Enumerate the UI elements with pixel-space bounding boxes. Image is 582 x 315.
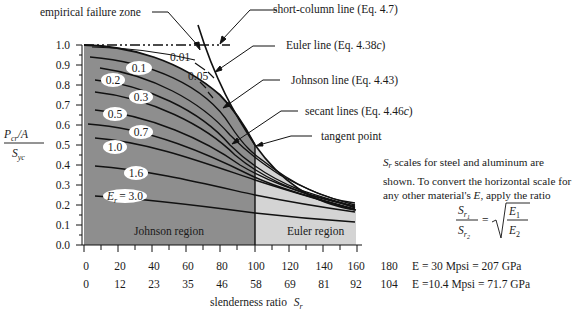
svg-text:0.1: 0.1 (56, 219, 71, 231)
svg-text:Sr2: Sr2 (458, 224, 470, 240)
svg-text:23: 23 (148, 278, 160, 290)
empirical-failure-zone-label: empirical failure zone (40, 6, 141, 19)
svg-text:12: 12 (114, 278, 126, 290)
svg-text:1.0: 1.0 (108, 141, 123, 153)
y-tick-labels: 1.0 0.9 0.8 0.7 0.6 0.5 0.4 0.3 0.2 0.1 … (56, 39, 71, 251)
ratio-formula: Sr1 Sr2 = E1 E2 (456, 203, 530, 240)
svg-text:1.6: 1.6 (129, 167, 144, 179)
svg-text:0.5: 0.5 (108, 108, 123, 120)
svg-text:120: 120 (281, 260, 299, 272)
steel-scale-label: E = 30 Mpsi = 207 GPa (412, 260, 521, 273)
svg-text:0.6: 0.6 (56, 119, 71, 131)
euler-region-label: Euler region (287, 225, 344, 238)
svg-text:0.7: 0.7 (56, 99, 71, 111)
svg-text:0: 0 (83, 260, 89, 272)
svg-text:Syc: Syc (12, 147, 25, 162)
x-tick-labels-steel: 0 20 40 60 80 100 120 140 160 180 (83, 260, 398, 272)
tangent-point-label: tangent point (321, 130, 382, 143)
svg-text:69: 69 (284, 278, 296, 290)
svg-text:92: 92 (350, 278, 362, 290)
svg-text:40: 40 (148, 260, 160, 272)
svg-text:35: 35 (182, 278, 194, 290)
aluminum-scale-label: E =10.4 Mpsi = 71.7 GPa (412, 278, 530, 291)
y-ticks (76, 45, 82, 235)
svg-text:46: 46 (216, 278, 228, 290)
svg-text:0.2: 0.2 (106, 74, 121, 86)
euler-line-label: Euler line (Eq. 4.38c) (286, 39, 386, 52)
svg-text:0.5: 0.5 (56, 139, 71, 151)
svg-text:Pcr/A: Pcr/A (3, 128, 29, 143)
johnson-line-label: Johnson line (Eq. 4.43) (291, 74, 398, 87)
svg-text:0.2: 0.2 (56, 199, 71, 211)
short-column-label: short-column line (Eq. 4.7) (273, 3, 398, 16)
svg-text:E1: E1 (508, 205, 520, 220)
svg-text:60: 60 (182, 260, 194, 272)
svg-text:180: 180 (380, 260, 398, 272)
svg-text:20: 20 (114, 260, 126, 272)
svg-text:0.4: 0.4 (56, 159, 71, 171)
svg-text:0.01: 0.01 (170, 51, 190, 63)
svg-text:E2: E2 (508, 224, 520, 239)
svg-text:0.3: 0.3 (134, 91, 149, 103)
scale-conversion-note: Sr scales for steel and aluminum are sho… (383, 155, 582, 203)
svg-text:104: 104 (380, 278, 398, 290)
svg-text:=: = (482, 214, 489, 226)
svg-text:140: 140 (315, 260, 333, 272)
svg-text:1.0: 1.0 (56, 39, 71, 51)
svg-text:0.7: 0.7 (134, 126, 149, 138)
svg-text:0.1: 0.1 (132, 62, 147, 74)
y-axis-label: Pcr/A Syc (3, 128, 44, 162)
x-tick-labels-aluminum: 0 12 23 35 46 58 69 81 92 104 (83, 278, 398, 290)
svg-text:80: 80 (216, 260, 228, 272)
x-ticks (84, 245, 357, 252)
svg-text:100: 100 (247, 260, 265, 272)
johnson-region-label: Johnson region (134, 225, 204, 238)
svg-text:0.3: 0.3 (56, 179, 71, 191)
svg-text:160: 160 (347, 260, 365, 272)
svg-text:58: 58 (250, 278, 262, 290)
svg-text:0.8: 0.8 (56, 79, 71, 91)
svg-text:81: 81 (318, 278, 330, 290)
svg-text:Sr1: Sr1 (458, 204, 470, 220)
secant-lines-label: secant lines (Eq. 4.46c) (305, 105, 413, 118)
x-axis-label: slenderness ratio Sr (210, 296, 304, 311)
svg-text:0.05: 0.05 (188, 70, 208, 82)
svg-text:0.9: 0.9 (56, 59, 71, 71)
svg-text:0: 0 (83, 278, 89, 290)
svg-text:0.0: 0.0 (56, 239, 71, 251)
